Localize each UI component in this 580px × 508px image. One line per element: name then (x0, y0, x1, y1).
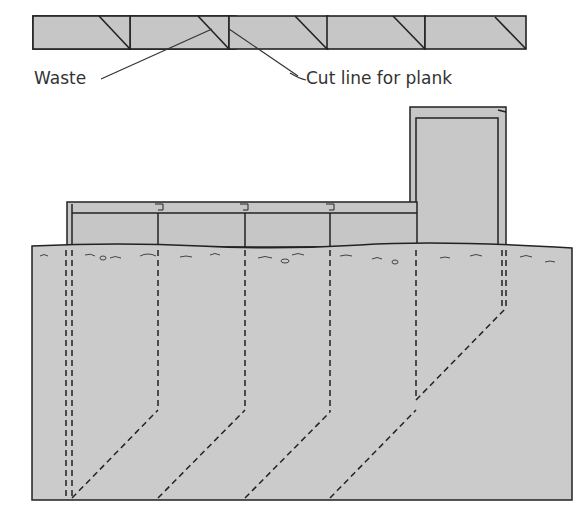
plank-strip (33, 16, 526, 49)
ground (32, 243, 572, 500)
low-planks (67, 202, 417, 247)
waste-label: Waste (34, 68, 86, 88)
tall-plank (410, 107, 506, 247)
cut-line-label: Cut line for plank (306, 68, 452, 88)
plank-diagram: Waste Cut line for plank (0, 0, 580, 508)
